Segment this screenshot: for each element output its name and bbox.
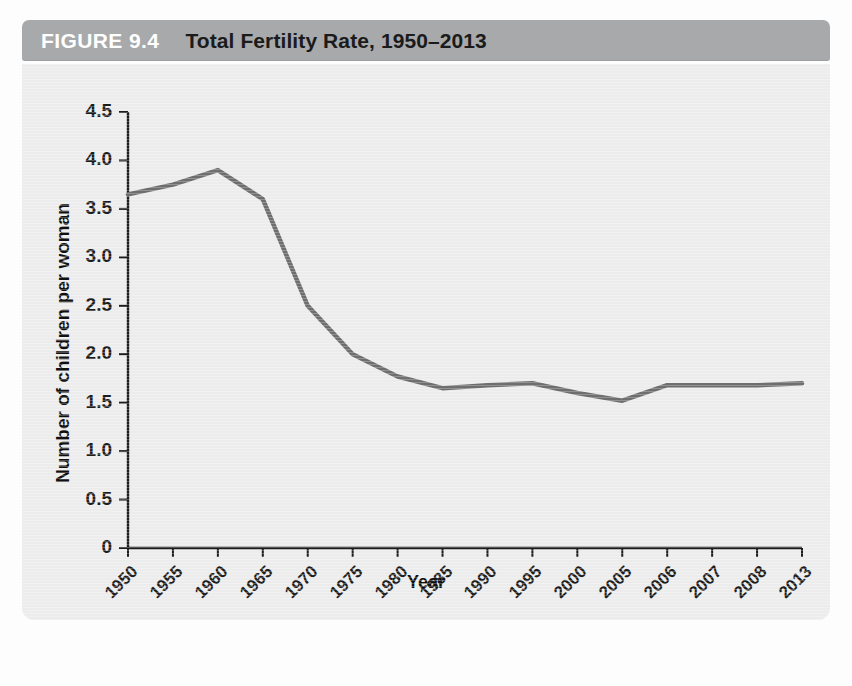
fertility-rate-line (128, 170, 802, 401)
chart-tick-marks (119, 112, 802, 557)
y-tick-label: 4.0 (52, 148, 112, 170)
figure-header-bar: FIGURE 9.4 Total Fertility Rate, 1950–20… (22, 20, 830, 61)
y-tick-label: 4.5 (52, 100, 112, 122)
x-axis-title: Year (22, 572, 830, 593)
y-tick-label: 0 (52, 536, 112, 558)
figure-number: FIGURE 9.4 (41, 29, 159, 53)
figure-title: Total Fertility Rate, 1950–2013 (185, 29, 487, 53)
figure-page: the relationship between the mean age at… (0, 0, 852, 686)
chart-panel: 00.51.01.52.02.53.03.54.04.5 19501955196… (22, 64, 830, 620)
y-axis-title: Number of children per woman (52, 178, 74, 508)
line-chart-plot (22, 64, 830, 620)
